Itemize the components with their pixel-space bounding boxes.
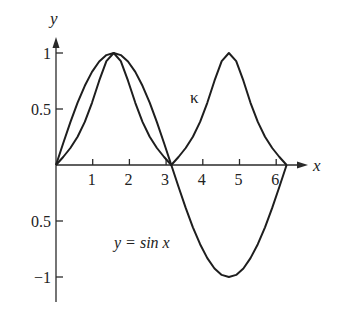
x-tick-label: 4 (198, 171, 206, 188)
x-tick-label: 1 (88, 171, 96, 188)
y-tick-label: −1 (34, 269, 51, 286)
kappa-label: κ (190, 88, 199, 107)
y-tick-label: 1 (43, 45, 51, 62)
x-tick-label: 6 (271, 171, 279, 188)
chart: y x 123456 10.50.5−1 κ y = sin x (0, 0, 340, 318)
x-axis-arrow-icon (297, 162, 308, 169)
y-tick-label: 0.5 (31, 213, 51, 230)
x-tick-label: 5 (235, 171, 243, 188)
x-ticks: 123456 (88, 159, 280, 188)
y-axis-label: y (48, 9, 58, 28)
curvature-curve (56, 53, 287, 165)
x-tick-label: 2 (124, 171, 132, 188)
y-tick-label: 0.5 (31, 101, 51, 118)
sine-label: y = sin x (112, 234, 170, 252)
sine-label-text: y = sin x (112, 234, 170, 252)
x-tick-label: 3 (161, 171, 169, 188)
x-axis-label: x (312, 156, 321, 175)
y-axis-arrow-icon (53, 37, 60, 48)
